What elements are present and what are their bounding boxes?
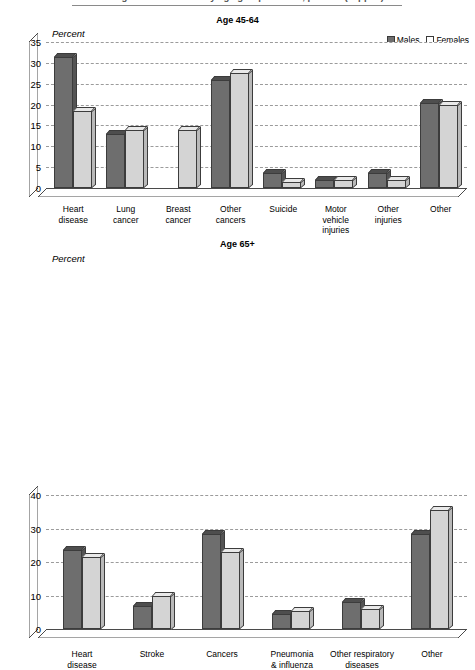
bar-males-other-injuries[interactable] — [368, 173, 387, 188]
bar-face — [439, 105, 458, 188]
panel2-bar-groups — [47, 495, 465, 629]
bar-side-3d — [240, 548, 244, 629]
bar-side-3d — [458, 101, 462, 188]
panel2-title: Age 65+ — [0, 239, 475, 249]
bar-face — [152, 596, 171, 630]
bar-group — [413, 42, 465, 188]
panel2-plot-area: 403020100 — [38, 495, 467, 638]
bar-females-other[interactable] — [439, 105, 458, 188]
bar-females-breast-cancer[interactable] — [178, 130, 197, 188]
bar-face — [178, 130, 197, 188]
y-tick-label-15: 15 — [30, 122, 41, 132]
bar-males-lung-cancer[interactable] — [106, 134, 125, 188]
bar-face — [282, 182, 301, 188]
bar-face — [387, 180, 406, 188]
y-tick-label-30: 30 — [30, 59, 41, 69]
bar-group — [256, 42, 308, 188]
bar-side-3d — [449, 506, 453, 629]
bar-males-heart-disease[interactable] — [54, 57, 73, 188]
bar-males-other[interactable] — [411, 534, 430, 629]
bar-face — [334, 180, 353, 188]
bar-males-pneumonia-influenza[interactable] — [272, 614, 291, 629]
bar-females-stroke[interactable] — [152, 596, 171, 630]
bar-face — [202, 534, 221, 629]
bar-face — [211, 80, 230, 188]
bar-group — [186, 495, 256, 629]
bar-side-3d — [197, 126, 201, 188]
bar-group — [47, 42, 99, 188]
y-tick-label-35: 35 — [30, 38, 41, 48]
bar-males-suicide[interactable] — [263, 173, 282, 188]
bar-side-3d — [380, 605, 384, 629]
bar-females-lung-cancer[interactable] — [125, 130, 144, 188]
y-tick-label-0: 0 — [36, 184, 41, 194]
bar-group — [204, 42, 256, 188]
bar-females-other-cancers[interactable] — [230, 73, 249, 188]
panel2-category-labels: HeartdiseaseStrokeCancersPneumonia& infl… — [47, 649, 467, 670]
bar-females-other[interactable] — [430, 510, 449, 629]
bar-group — [99, 42, 151, 188]
category-label: Motorvehicleinjuries — [310, 204, 363, 236]
category-label: Heartdisease — [47, 204, 100, 236]
bar-face — [73, 111, 92, 188]
bar-males-other[interactable] — [420, 103, 439, 189]
bar-group — [152, 42, 204, 188]
bar-females-suicide[interactable] — [282, 182, 301, 188]
panel1-y-axis-label: Percent — [52, 28, 85, 39]
bar-females-motor-vehicle-injuries[interactable] — [334, 180, 353, 188]
y-tick-label-25: 25 — [30, 80, 41, 90]
bar-face — [221, 552, 240, 629]
bar-group — [47, 495, 117, 629]
category-label: Suicide — [257, 204, 310, 236]
bar-group — [308, 42, 360, 188]
bar-males-other-respiratory-diseases[interactable] — [342, 602, 361, 629]
panel1-title: Age 45-64 — [0, 15, 475, 25]
bar-face — [272, 614, 291, 629]
axis-baseline: 0 — [46, 629, 467, 630]
bar-group — [117, 495, 187, 629]
category-label: Breastcancer — [152, 204, 205, 236]
bar-males-cancers[interactable] — [202, 534, 221, 629]
category-label: Stroke — [117, 649, 187, 670]
bar-females-other-respiratory-diseases[interactable] — [361, 609, 380, 629]
panel1-plot-area: 35302520151050 — [38, 42, 467, 197]
bar-face — [368, 173, 387, 188]
bar-females-cancers[interactable] — [221, 552, 240, 629]
bar-side-3d — [144, 126, 148, 188]
bar-group — [326, 495, 396, 629]
panel2-y-axis-label: Percent — [52, 253, 85, 264]
category-label: Cancers — [187, 649, 257, 670]
y-tick-label-30: 30 — [30, 525, 41, 535]
bar-face — [230, 73, 249, 188]
bar-males-motor-vehicle-injuries[interactable] — [315, 180, 334, 188]
bar-females-pneumonia-influenza[interactable] — [291, 611, 310, 629]
title-divider-rule — [72, 5, 402, 6]
y-tick-label-40: 40 — [30, 491, 41, 501]
bar-face — [420, 103, 439, 189]
bar-face — [82, 557, 101, 629]
bar-side-3d — [353, 176, 357, 188]
bar-face — [125, 130, 144, 188]
bar-females-heart-disease[interactable] — [82, 557, 101, 629]
figure-title-text: Leading causes of death by age group and… — [0, 0, 475, 2]
y-tick-label-10: 10 — [30, 592, 41, 602]
bar-side-3d — [249, 70, 253, 188]
y-tick-label-0: 0 — [36, 625, 41, 635]
bar-group — [256, 495, 326, 629]
y-tick-label-20: 20 — [30, 558, 41, 568]
y-tick-label-10: 10 — [30, 143, 41, 153]
bar-face — [63, 550, 82, 629]
bar-males-other-cancers[interactable] — [211, 80, 230, 188]
category-label: Other respiratorydiseases — [327, 649, 397, 670]
category-label: Lungcancer — [100, 204, 153, 236]
bar-face — [263, 173, 282, 188]
axis-baseline: 0 — [46, 188, 467, 189]
bar-females-other-injuries[interactable] — [387, 180, 406, 188]
bar-side-3d — [101, 553, 105, 629]
bar-males-stroke[interactable] — [133, 606, 152, 629]
bar-females-heart-disease[interactable] — [73, 111, 92, 188]
bar-face — [291, 611, 310, 629]
bar-face — [430, 510, 449, 629]
bar-males-heart-disease[interactable] — [63, 550, 82, 629]
bar-group — [361, 42, 413, 188]
